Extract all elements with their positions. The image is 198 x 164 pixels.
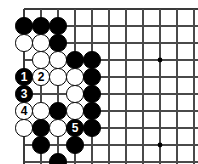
stone-black — [49, 17, 67, 35]
stone-black — [66, 51, 84, 69]
stone-black — [83, 119, 101, 137]
stone-white — [49, 119, 67, 137]
move-number-label: 3 — [21, 88, 28, 100]
stone-black — [15, 17, 33, 35]
stone-white — [15, 34, 33, 52]
star-point — [158, 143, 163, 148]
stone-black — [32, 17, 50, 35]
stone-white — [32, 102, 50, 120]
stone-black — [32, 119, 50, 137]
stone-white — [15, 119, 33, 137]
stone-white — [66, 102, 84, 120]
stone-white — [32, 34, 50, 52]
stone-black — [49, 153, 67, 164]
move-stone-2-white: 2 — [32, 68, 50, 86]
go-board-diagram: 12345 — [0, 0, 198, 164]
stone-black — [49, 102, 67, 120]
move-stone-4-white: 4 — [15, 102, 33, 120]
stone-white — [66, 85, 84, 103]
stone-white — [32, 51, 50, 69]
star-point — [158, 58, 163, 63]
stone-black — [66, 136, 84, 154]
stone-black — [32, 136, 50, 154]
stone-white — [49, 51, 67, 69]
move-stone-5-black: 5 — [66, 119, 84, 137]
stone-white — [49, 68, 67, 86]
stone-black — [83, 51, 101, 69]
move-number-label: 1 — [21, 71, 28, 83]
stone-black — [83, 85, 101, 103]
stone-white — [66, 68, 84, 86]
move-number-label: 2 — [38, 71, 45, 83]
stone-black — [83, 102, 101, 120]
move-number-label: 4 — [21, 105, 28, 117]
move-stone-3-black: 3 — [15, 85, 33, 103]
move-number-label: 5 — [72, 122, 79, 134]
move-stone-1-black: 1 — [15, 68, 33, 86]
stone-black — [83, 68, 101, 86]
stone-black — [49, 34, 67, 52]
